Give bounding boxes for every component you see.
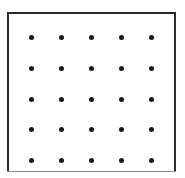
grid-dot (89, 158, 94, 163)
grid-dot (59, 127, 64, 132)
grid-dot (149, 35, 154, 40)
grid-dot (149, 158, 154, 163)
grid-dot (149, 66, 154, 71)
grid-dot (89, 66, 94, 71)
grid-dot (149, 97, 154, 102)
frame-border-bottom (7, 171, 176, 172)
grid-dot (89, 97, 94, 102)
grid-dot (59, 158, 64, 163)
grid-frame (7, 12, 176, 172)
grid-dot (29, 97, 34, 102)
grid-dot (59, 97, 64, 102)
grid-dot (119, 127, 124, 132)
grid-dot (119, 158, 124, 163)
grid-dot (119, 97, 124, 102)
frame-border-right (174, 12, 176, 172)
grid-dot (29, 66, 34, 71)
grid-dot (59, 35, 64, 40)
grid-dot (59, 66, 64, 71)
grid-dot (29, 158, 34, 163)
frame-border-top (7, 12, 176, 14)
grid-dot (89, 127, 94, 132)
grid-dot (29, 35, 34, 40)
grid-dot (119, 35, 124, 40)
grid-dot (119, 66, 124, 71)
figure-canvas (0, 0, 185, 178)
grid-dot (89, 35, 94, 40)
grid-dot (149, 127, 154, 132)
frame-border-left (7, 12, 9, 172)
grid-dot (29, 127, 34, 132)
